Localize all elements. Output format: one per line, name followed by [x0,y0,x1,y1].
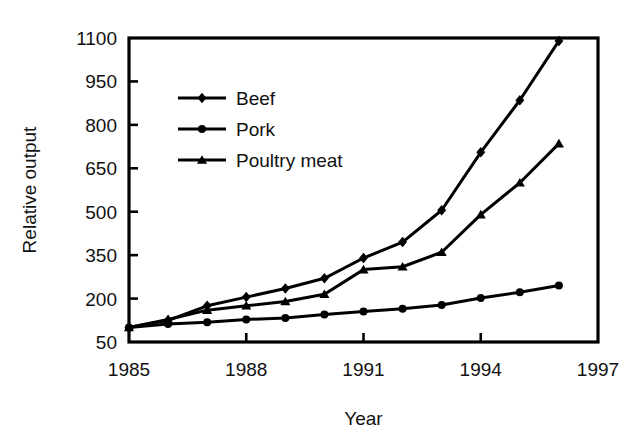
series-line [129,286,559,328]
data-point-circle [203,318,211,326]
data-point-diamond [359,253,368,263]
legend-label: Poultry meat [236,150,343,171]
data-point-triangle [554,139,564,148]
data-point-circle [198,125,206,133]
x-tick-label: 1991 [342,359,384,380]
y-tick-label: 50 [96,332,117,353]
x-tick-label: 1997 [577,359,619,380]
data-point-diamond [320,273,329,284]
legend: BeefPorkPoultry meat [178,88,343,171]
data-point-circle [477,294,485,302]
legend-item-beef[interactable]: Beef [178,88,276,109]
x-axis-title: Year [344,408,383,429]
data-point-diamond [198,93,207,104]
data-point-circle [516,288,524,296]
data-point-circle [281,314,289,322]
legend-item-poultry-meat[interactable]: Poultry meat [178,150,343,171]
y-tick-label: 350 [85,245,117,266]
x-tick-label: 1988 [225,359,267,380]
data-point-circle [555,282,563,290]
data-point-circle [242,315,250,323]
series-beef [125,36,564,333]
legend-label: Beef [236,88,276,109]
series-line [129,144,559,328]
legend-label: Pork [236,119,276,140]
y-tick-label: 500 [85,202,117,223]
data-point-diamond [281,283,290,294]
plot-frame [129,38,598,342]
x-tick-label: 1994 [460,359,503,380]
y-axis-title: Relative output [19,126,40,253]
data-point-circle [360,308,368,316]
series-line [129,41,559,328]
y-tick-label: 1100 [76,28,117,49]
y-tick-label: 800 [85,115,117,136]
data-point-diamond [242,292,251,303]
data-point-circle [320,311,328,319]
y-tick-label: 950 [85,71,117,92]
line-chart: 5020035050065080095011001985198819911994… [0,0,642,435]
y-tick-label: 200 [85,289,117,310]
chart-figure: 5020035050065080095011001985198819911994… [0,0,642,435]
legend-item-pork[interactable]: Pork [178,119,276,140]
x-tick-label: 1985 [108,359,150,380]
y-tick-label: 650 [85,158,117,179]
series-pork [125,282,563,332]
data-point-circle [399,305,407,313]
series-poultry-meat [124,139,564,331]
data-point-circle [438,301,446,309]
